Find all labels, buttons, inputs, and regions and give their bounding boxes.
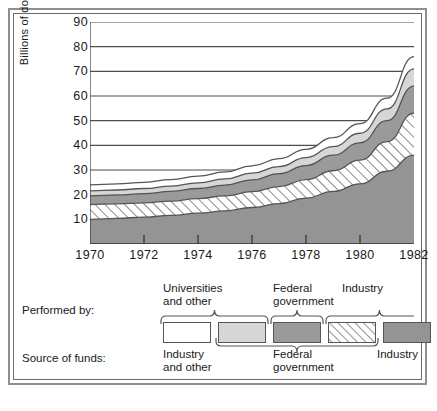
performed-caption-1-line1: Federal	[273, 282, 334, 295]
x-axis-tick-labels: 1970197219741976197819801982	[90, 248, 414, 268]
x-tick-1970: 1970	[75, 248, 104, 262]
x-tick-1974: 1974	[183, 248, 212, 262]
source-of-funds-label: Source of funds:	[22, 352, 106, 364]
source-caption-1: Federalgovernment	[273, 348, 334, 373]
y-tick-50: 50	[73, 114, 88, 128]
y-tick-10: 10	[73, 212, 88, 226]
stacked-area-svg	[90, 22, 414, 244]
x-tick-1982: 1982	[399, 248, 428, 262]
legend-swatch-industry-performed-federal-funded	[328, 322, 376, 343]
legend-swatch-federal-performed-federal-funded	[273, 322, 321, 343]
chart-area: Billions of dollars 102030405060708090	[22, 22, 414, 272]
y-tick-80: 80	[73, 40, 88, 54]
y-tick-40: 40	[73, 138, 88, 152]
y-axis-title: Billions of dollars	[18, 0, 30, 82]
chart-page: Billions of dollars 102030405060708090	[0, 0, 437, 411]
legend-swatch-universities-federal-funded	[218, 322, 266, 343]
x-tick-1978: 1978	[291, 248, 320, 262]
source-caption-2-line1: Industry	[377, 348, 418, 361]
performed-caption-1-line2: government	[273, 295, 334, 308]
plot-region	[90, 22, 414, 244]
x-tick-1972: 1972	[129, 248, 158, 262]
area-bands	[90, 57, 414, 244]
y-tick-60: 60	[73, 89, 88, 103]
legend-swatch-universities-industry-funded	[163, 322, 211, 343]
y-tick-30: 30	[73, 163, 88, 177]
legend: Performed by: Source of funds: Universit…	[22, 282, 414, 378]
performed-caption-2-line1: Industry	[342, 282, 383, 295]
performed-caption-0-line2: and other	[163, 295, 222, 308]
performed-caption-1: Federalgovernment	[273, 282, 334, 307]
y-axis-title-text: Billions of dollars	[18, 0, 30, 82]
performed-caption-2: Industry	[342, 282, 383, 295]
source-caption-1-line2: government	[273, 361, 334, 374]
x-tick-1980: 1980	[345, 248, 374, 262]
legend-swatch-industry-performed-industry-funded	[383, 322, 431, 343]
source-caption-1-line1: Federal	[273, 348, 334, 361]
performed-by-label: Performed by:	[22, 304, 94, 316]
x-tick-1976: 1976	[237, 248, 266, 262]
y-tick-90: 90	[73, 15, 88, 29]
performed-caption-0-line1: Universities	[163, 282, 222, 295]
performed-caption-0: Universitiesand other	[163, 282, 222, 307]
y-axis-tick-labels: 102030405060708090	[50, 22, 88, 244]
source-caption-0-line1: Industry	[163, 348, 212, 361]
source-caption-2: Industry	[377, 348, 418, 361]
y-tick-20: 20	[73, 188, 88, 202]
legend-swatches	[22, 322, 414, 344]
source-caption-0-line2: and other	[163, 361, 212, 374]
source-caption-0: Industryand other	[163, 348, 212, 373]
y-tick-70: 70	[73, 64, 88, 78]
